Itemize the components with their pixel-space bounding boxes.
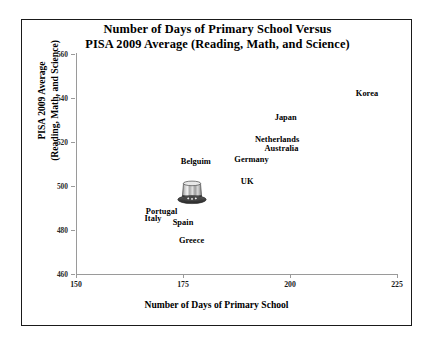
- y-axis-line: [76, 53, 77, 275]
- y-axis-title: PISA 2009 Average (Reading, Math, and Sc…: [36, 0, 61, 211]
- top-hat-marker-icon: [173, 178, 211, 206]
- data-point-label-korea: Korea: [356, 89, 378, 98]
- x-axis-title: Number of Days of Primary School: [21, 299, 412, 310]
- x-tick-label: 225: [377, 280, 417, 289]
- data-point-label-netherlands: Netherlands: [255, 135, 299, 144]
- data-point-label-italy: Italy: [145, 214, 162, 223]
- x-tick-label: 150: [56, 280, 96, 289]
- data-point-label-uk: UK: [241, 177, 254, 186]
- x-axis-line: [76, 274, 398, 275]
- chart-title-line-1: Number of Days of Primary School Versus: [40, 22, 395, 37]
- chart-figure: Number of Days of Primary School Versus …: [0, 0, 430, 345]
- y-axis-title-line-1: PISA 2009 Average: [36, 0, 49, 211]
- y-tick-mark: [71, 54, 75, 55]
- x-tick-mark: [290, 274, 291, 278]
- data-point-label-spain: Spain: [173, 218, 194, 227]
- x-tick-mark: [397, 274, 398, 278]
- y-tick-label: 500: [44, 182, 68, 191]
- y-tick-label: 460: [44, 270, 68, 279]
- data-point-label-greece: Greece: [179, 236, 204, 245]
- y-tick-mark: [71, 142, 75, 143]
- y-tick-mark: [71, 186, 75, 187]
- data-point-label-germany: Germany: [234, 155, 268, 164]
- data-point-label-australia: Australia: [264, 144, 298, 153]
- y-tick-mark: [71, 274, 75, 275]
- chart-title: Number of Days of Primary School Versus …: [40, 22, 395, 52]
- x-tick-mark: [76, 274, 77, 278]
- data-point-label-belguim: Belguim: [181, 157, 211, 166]
- y-tick-label: 520: [44, 138, 68, 147]
- y-tick-mark: [71, 98, 75, 99]
- data-point-label-japan: Japan: [275, 113, 297, 122]
- y-tick-label: 540: [44, 94, 68, 103]
- x-tick-label: 200: [270, 280, 310, 289]
- y-tick-label: 560: [44, 50, 68, 59]
- chart-title-line-2: PISA 2009 Average (Reading, Math, and Sc…: [40, 37, 395, 52]
- x-tick-mark: [183, 274, 184, 278]
- y-tick-label: 480: [44, 226, 68, 235]
- y-axis-title-line-2: (Reading, Math, and Science): [48, 0, 61, 211]
- y-tick-mark: [71, 230, 75, 231]
- x-tick-label: 175: [163, 280, 203, 289]
